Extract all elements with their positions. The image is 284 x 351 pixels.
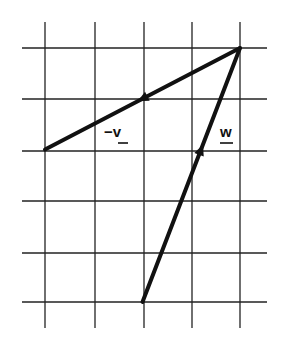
vectors xyxy=(45,48,240,302)
labels: −v w xyxy=(104,123,233,143)
vector-diagram: −v w xyxy=(0,0,284,351)
w-vector xyxy=(143,48,241,302)
w-label: w xyxy=(219,123,232,140)
neg-v-label: −v xyxy=(104,123,122,140)
